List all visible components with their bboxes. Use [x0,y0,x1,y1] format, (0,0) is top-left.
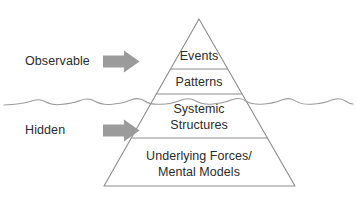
diagram-canvas: Observable Hidden Events Patterns System… [0,0,356,202]
side-label-hidden: Hidden [25,123,65,137]
side-label-observable: Observable [25,54,90,68]
tier-label-line-1: Underlying Forces/ [146,148,252,164]
right-arrow-icon-observable [103,51,140,73]
tier-patterns: Patterns [155,71,243,93]
tier-label-events: Events [180,49,219,63]
tier-label-line-2: Structures [170,117,227,133]
tier-label-patterns: Patterns [176,75,223,89]
tier-events: Events [155,44,243,68]
tier-label-systemic-structures: Systemic Structures [170,101,227,133]
tier-label-underlying-forces: Underlying Forces/ Mental Models [146,148,252,180]
tier-label-line-1: Systemic [170,101,227,117]
tier-label-line-2: Mental Models [146,164,252,180]
tier-systemic-structures: Systemic Structures [140,96,258,137]
tier-underlying-forces: Underlying Forces/ Mental Models [117,143,281,184]
